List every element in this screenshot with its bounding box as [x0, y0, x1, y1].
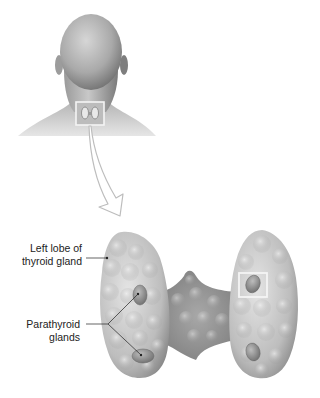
diagram-canvas: Left lobe of thyroid gland Parathyroid g… [0, 0, 320, 398]
parathyroid-gland-upper-left [133, 285, 147, 305]
label-parathyroid-line1: Parathyroid [26, 318, 80, 331]
neck-location-highlight-box [76, 102, 104, 125]
head [60, 14, 122, 90]
label-left-lobe-line1: Left lobe of [22, 242, 82, 255]
magnification-arrow [89, 126, 123, 216]
label-parathyroid-line2: glands [26, 331, 80, 344]
label-left-lobe: Left lobe of thyroid gland [22, 242, 82, 267]
thyroid-gland [100, 230, 298, 378]
parathyroid-gland-lower-left [132, 349, 154, 363]
label-left-lobe-line2: thyroid gland [22, 255, 82, 268]
label-parathyroid-glands: Parathyroid glands [26, 318, 80, 343]
